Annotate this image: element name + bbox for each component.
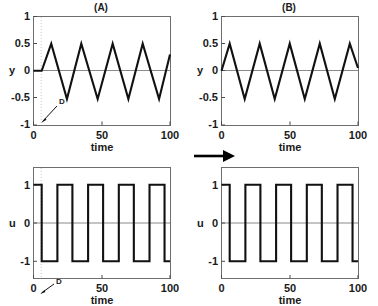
panel-d-xtick-50: 50 <box>284 282 296 294</box>
panel-b-ytick-neg0p5: -0.5 <box>199 91 218 103</box>
panel-b-y-axis-label: y <box>197 64 204 76</box>
panel-d-xtick-0: 0 <box>218 282 224 294</box>
panel-d-ytick-0: 0 <box>212 217 218 229</box>
panel-a-annotation-d-label: D <box>59 97 65 106</box>
panel-a-x-axis-label: time <box>91 141 114 153</box>
panel-c-y-axis-label: u <box>9 217 16 229</box>
panel-d-y-axis-label: u <box>197 217 204 229</box>
panel-b-svg: (B) 1 0.5 0 -0.5 -1 y 0 50 <box>188 0 378 152</box>
figure-canvas: (A) 1 0.5 0 <box>0 0 378 306</box>
panel-c-annotation-d-label: D <box>56 277 62 286</box>
panel-a-ytick-0: 0 <box>24 64 30 76</box>
panel-a-x-ticks <box>34 122 171 126</box>
panel-b-x-ticks <box>222 122 359 126</box>
panel-c-container: 1 0 -1 u 0 50 100 time D <box>0 160 190 306</box>
right-arrow-icon <box>194 150 235 162</box>
panel-c-annotation-d: D <box>40 277 62 294</box>
panel-d-x-axis-label: time <box>279 294 302 306</box>
panel-a-xtick-50: 50 <box>96 129 108 141</box>
panel-c-x-ticks <box>34 275 171 279</box>
panel-b-title: (B) <box>282 2 296 13</box>
panel-b-ytick-0p5: 0.5 <box>203 37 218 49</box>
panel-c-y-ticks <box>34 185 38 262</box>
panel-a-svg: (A) 1 0.5 0 <box>0 0 190 152</box>
panel-a-title: (A) <box>94 2 108 13</box>
panel-d-ytick-1: 1 <box>212 179 218 191</box>
panel-b-ytick-1: 1 <box>212 10 218 22</box>
panel-a-ytick-neg0p5: -0.5 <box>11 91 30 103</box>
panel-d-y-ticks <box>222 185 226 262</box>
panel-a-xtick-0: 0 <box>30 129 36 141</box>
panel-a-ytick-neg1: -1 <box>20 118 30 130</box>
panel-b-ytick-0: 0 <box>212 64 218 76</box>
panel-d-x-ticks <box>222 275 359 279</box>
panel-c-ytick-neg1: -1 <box>20 255 30 267</box>
panel-b-xtick-100: 100 <box>349 129 367 141</box>
panel-a-series-y <box>34 44 171 99</box>
panel-a-ytick-0p5: 0.5 <box>15 37 30 49</box>
panel-c-ytick-1: 1 <box>24 179 30 191</box>
panel-a-xtick-100: 100 <box>161 129 179 141</box>
panel-c-xtick-0: 0 <box>30 282 36 294</box>
transition-arrow-svg <box>180 140 250 172</box>
panel-a-container: (A) 1 0.5 0 <box>0 0 190 152</box>
panel-d-xtick-100: 100 <box>349 282 367 294</box>
panel-a-annotation-d: D <box>41 97 65 123</box>
panel-c-svg: 1 0 -1 u 0 50 100 time D <box>0 160 190 306</box>
panel-b-x-axis-label: time <box>279 141 302 153</box>
panel-b-container: (B) 1 0.5 0 -0.5 -1 y 0 50 <box>188 0 378 152</box>
transition-arrow-container <box>180 140 250 172</box>
panel-c-ytick-0: 0 <box>24 217 30 229</box>
panel-a-ytick-1: 1 <box>24 10 30 22</box>
panel-c-xtick-50: 50 <box>96 282 108 294</box>
panel-b-series-y <box>222 44 359 99</box>
panel-c-xtick-100: 100 <box>161 282 179 294</box>
panel-d-container: 1 0 -1 u 0 50 100 time <box>188 160 378 306</box>
panel-c-x-axis-label: time <box>91 294 114 306</box>
panel-d-ytick-neg1: -1 <box>208 255 218 267</box>
panel-d-svg: 1 0 -1 u 0 50 100 time <box>188 160 378 306</box>
panel-a-y-axis-label: y <box>9 64 16 76</box>
panel-b-xtick-50: 50 <box>284 129 296 141</box>
panel-b-ytick-neg1: -1 <box>208 118 218 130</box>
